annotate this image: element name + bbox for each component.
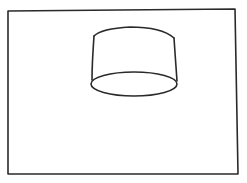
sketch-canvas xyxy=(0,0,247,183)
sketch-svg xyxy=(0,0,247,183)
cylinder-top-edge xyxy=(94,27,174,38)
cylinder-bottom-ellipse xyxy=(91,72,177,96)
frame-border xyxy=(8,9,238,174)
cylinder-left-side xyxy=(92,36,94,80)
cylinder-shape xyxy=(91,27,177,96)
cylinder-right-side xyxy=(174,38,177,81)
